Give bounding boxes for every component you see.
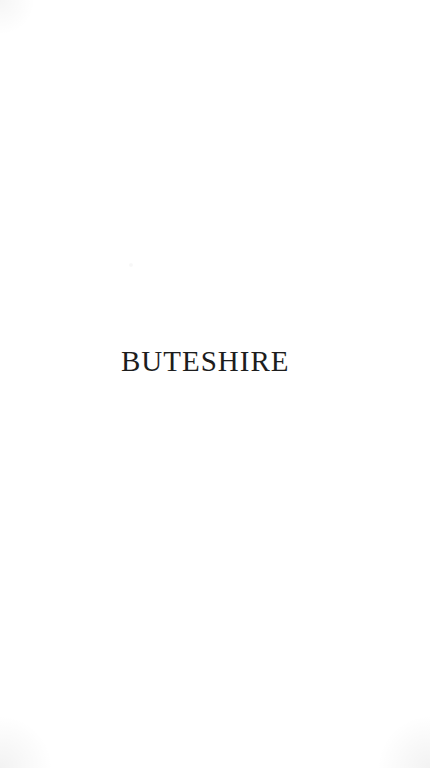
book-page: BUTESHIRE [0, 0, 430, 768]
half-title-text: BUTESHIRE [121, 346, 290, 378]
paper-speck [129, 263, 133, 267]
